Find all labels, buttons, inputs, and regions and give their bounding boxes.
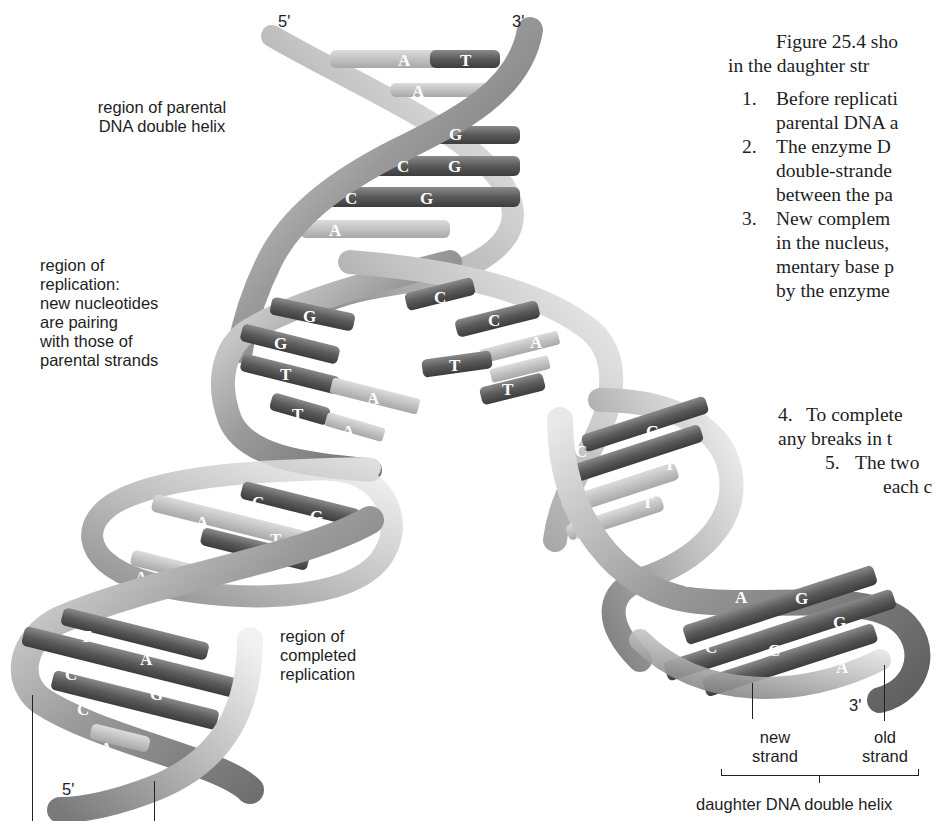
- label-replication-region: region of replication: new nucleotides a…: [40, 256, 158, 370]
- svg-text:C: C: [575, 442, 587, 461]
- bracket-center-tick: [819, 776, 820, 783]
- svg-text:A: A: [329, 221, 342, 240]
- svg-text:C: C: [397, 157, 409, 176]
- svg-text:C: C: [345, 189, 357, 208]
- svg-text:A: A: [530, 333, 543, 352]
- label-3prime-bottom: 3': [849, 696, 861, 715]
- svg-text:G: G: [795, 589, 808, 608]
- item-3-num: 3.: [742, 207, 757, 231]
- label-completed-region: region of completed replication: [280, 627, 356, 684]
- svg-text:A: A: [100, 739, 113, 758]
- svg-text:A: A: [342, 422, 355, 441]
- intro-line-2: in the daughter str: [728, 54, 869, 78]
- svg-text:G: G: [449, 125, 462, 144]
- svg-text:C: C: [434, 288, 446, 307]
- svg-text:A: A: [398, 51, 411, 70]
- svg-text:A: A: [412, 82, 425, 101]
- item-1-line-1: Before replicati: [776, 87, 898, 111]
- item-3-line-1: New complem: [776, 207, 890, 231]
- dna-replication-figure: A T A G C G C G A G G T A T: [0, 0, 948, 821]
- leader-old-strand: [884, 665, 885, 721]
- item-4-line-2: any breaks in t: [778, 427, 892, 451]
- svg-text:C: C: [705, 638, 717, 657]
- svg-text:T: T: [460, 51, 472, 70]
- label-parental-region: region of parental DNA double helix: [76, 98, 248, 136]
- bracket-right-tick: [918, 769, 919, 776]
- svg-text:C: C: [488, 311, 500, 330]
- svg-text:G: G: [274, 334, 287, 353]
- item-5-line-2: each c: [883, 475, 932, 499]
- item-2-line-1: The enzyme D: [776, 135, 891, 159]
- item-4-line-1: To complete: [806, 403, 903, 427]
- item-3-line-2: in the nucleus,: [776, 231, 889, 255]
- label-new-strand: new strand: [727, 728, 823, 766]
- svg-text:G: G: [448, 157, 461, 176]
- svg-text:A: A: [140, 650, 153, 669]
- svg-text:A: A: [147, 532, 160, 551]
- svg-text:G: G: [833, 613, 846, 632]
- leader-new-strand: [752, 683, 753, 719]
- svg-text:T: T: [449, 356, 461, 375]
- svg-text:G: G: [420, 189, 433, 208]
- svg-text:T: T: [502, 380, 514, 399]
- leader-left-strand-b: [154, 781, 155, 821]
- svg-text:T: T: [80, 627, 92, 646]
- item-5-num: 5.: [825, 451, 840, 475]
- label-daughter-helix: daughter DNA double helix: [696, 795, 892, 814]
- svg-text:T: T: [642, 493, 654, 512]
- label-old-strand: old strand: [845, 728, 925, 766]
- svg-text:T: T: [664, 455, 676, 474]
- item-1-num: 1.: [742, 87, 757, 111]
- label-5prime-bottom: 5': [62, 780, 74, 799]
- svg-text:A: A: [367, 389, 380, 408]
- svg-text:G: G: [150, 685, 163, 704]
- svg-text:G: G: [145, 717, 158, 736]
- svg-text:C: C: [252, 493, 264, 512]
- item-2-line-2: double-strande: [776, 159, 892, 183]
- svg-text:G: G: [681, 572, 694, 591]
- item-2-line-3: between the pa: [776, 183, 893, 207]
- svg-text:C: C: [768, 641, 780, 660]
- svg-text:T: T: [292, 405, 304, 424]
- item-1-line-2: parental DNA a: [776, 111, 898, 135]
- svg-text:A: A: [196, 513, 209, 532]
- label-5prime-top: 5': [278, 12, 290, 31]
- svg-text:G: G: [646, 422, 659, 441]
- item-2-num: 2.: [742, 135, 757, 159]
- svg-text:C: C: [65, 665, 77, 684]
- intro-line-1: Figure 25.4 sho: [776, 30, 898, 54]
- item-5-line-1: The two: [855, 451, 919, 475]
- svg-text:A: A: [735, 588, 748, 607]
- svg-text:G: G: [310, 507, 323, 526]
- svg-text:G: G: [303, 307, 316, 326]
- leader-left-strand-a: [32, 695, 33, 821]
- svg-text:T: T: [280, 365, 292, 384]
- svg-text:C: C: [77, 700, 89, 719]
- item-4-num: 4.: [778, 403, 793, 427]
- label-3prime-top: 3': [512, 12, 524, 31]
- item-3-line-4: by the enzyme: [776, 279, 890, 303]
- item-3-line-3: mentary base p: [776, 255, 894, 279]
- svg-text:T: T: [666, 620, 678, 639]
- bracket-left-tick: [721, 769, 722, 776]
- svg-text:A: A: [556, 357, 569, 376]
- svg-text:A: A: [836, 658, 849, 677]
